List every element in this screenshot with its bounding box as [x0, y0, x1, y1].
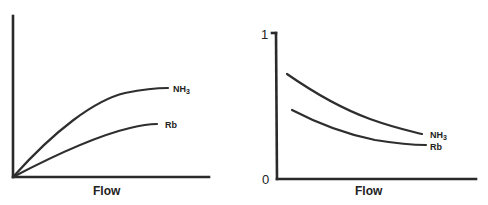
right-nh3-curve: [287, 74, 422, 134]
right-nh3-label: NH3: [430, 130, 447, 141]
right-x-axis-label: Flow: [355, 184, 383, 198]
right-chart: 1 0 NH3 Rb Flow: [261, 27, 476, 198]
left-nh3-label: NH3: [173, 84, 190, 95]
left-nh3-curve: [13, 88, 168, 177]
right-rb-label: Rb: [430, 142, 442, 152]
left-chart: NH3 Rb Flow: [13, 16, 209, 198]
left-x-axis-label: Flow: [93, 184, 121, 198]
right-y-tick-label-0: 0: [262, 172, 269, 187]
figure: NH3 Rb Flow 1 0 NH3 Rb Flow: [0, 0, 488, 205]
left-rb-label: Rb: [165, 120, 177, 130]
right-y-tick-label-1: 1: [261, 27, 268, 42]
left-rb-curve: [13, 124, 157, 177]
right-y-axis: [276, 33, 277, 179]
